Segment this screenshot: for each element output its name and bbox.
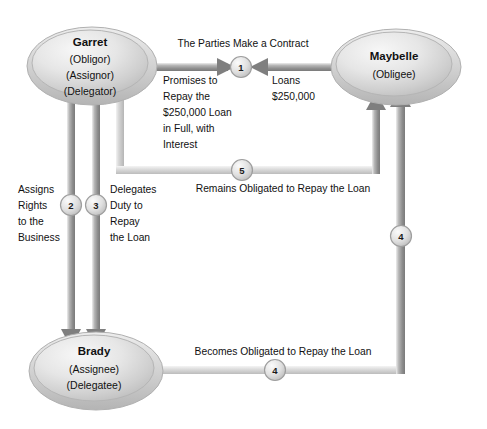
edge-1-maybelle-to-garret bbox=[250, 58, 336, 76]
edge-2-label-line-1: Assigns bbox=[18, 184, 54, 195]
edge-1-garret-to-maybelle bbox=[150, 58, 235, 76]
node-maybelle-name: Maybelle bbox=[370, 50, 419, 62]
marker-4-horizontal-number: 4 bbox=[272, 365, 278, 376]
node-brady-role-1: (Assignee) bbox=[69, 363, 119, 375]
marker-5-number: 5 bbox=[239, 165, 245, 176]
edge-2-label: Assigns Rights to the Business bbox=[18, 184, 60, 243]
edge-1-garret-label: Promises to Repay the $250,000 Loan in F… bbox=[163, 75, 232, 150]
marker-5: 5 bbox=[232, 160, 253, 181]
edge-3-label-line-4: the Loan bbox=[110, 232, 150, 243]
edge-3-delegation bbox=[86, 96, 106, 348]
edge-4-label: Becomes Obligated to Repay the Loan bbox=[195, 346, 372, 357]
edge-5-label: Remains Obligated to Repay the Loan bbox=[196, 183, 371, 194]
node-brady-name: Brady bbox=[78, 345, 111, 357]
edge-3-label: Delegates Duty to Repay the Loan bbox=[110, 184, 156, 243]
marker-3: 3 bbox=[86, 195, 107, 216]
edge-2-label-line-4: Business bbox=[18, 232, 60, 243]
edge-1-maybelle-label-line-2: $250,000 bbox=[272, 91, 315, 102]
edge-3-label-line-3: Repay bbox=[110, 216, 141, 227]
marker-2-number: 2 bbox=[68, 200, 73, 211]
edge-2-label-line-2: Rights bbox=[18, 200, 47, 211]
node-garret-name: Garret bbox=[73, 36, 108, 48]
node-maybelle-role-1: (Obligee) bbox=[372, 68, 415, 80]
node-brady-role-2: (Delegatee) bbox=[67, 379, 122, 391]
edge-1-garret-label-line-1: Promises to bbox=[163, 75, 218, 86]
edge-3-label-line-2: Duty to bbox=[110, 200, 143, 211]
marker-2: 2 bbox=[61, 195, 82, 216]
edge-1-maybelle-label-line-1: Loans bbox=[272, 75, 300, 86]
diagram-canvas: Garret (Obligor) (Assignor) (Delegator) … bbox=[0, 0, 487, 429]
marker-3-number: 3 bbox=[93, 200, 98, 211]
edge-3-label-line-1: Delegates bbox=[110, 184, 156, 195]
edge-1-maybelle-label: Loans $250,000 bbox=[272, 75, 315, 102]
node-maybelle[interactable]: Maybelle (Obligee) bbox=[331, 29, 461, 105]
marker-1-number: 1 bbox=[238, 62, 244, 73]
edge-1-heading: The Parties Make a Contract bbox=[177, 38, 308, 49]
diagram-svg: Garret (Obligor) (Assignor) (Delegator) … bbox=[0, 0, 487, 429]
edge-1-garret-label-line-4: in Full, with bbox=[163, 123, 215, 134]
edge-2-label-line-3: to the bbox=[18, 216, 44, 227]
node-brady[interactable]: Brady (Assignee) (Delegatee) bbox=[29, 332, 163, 410]
node-garret[interactable]: Garret (Obligor) (Assignor) (Delegator) bbox=[27, 27, 157, 105]
marker-4-horizontal: 4 bbox=[265, 360, 286, 381]
edge-5-garret-remains-obligated bbox=[116, 92, 386, 174]
node-garret-role-2: (Assignor) bbox=[66, 69, 114, 81]
node-garret-role-1: (Obligor) bbox=[70, 53, 111, 65]
edge-2-assignment bbox=[61, 96, 81, 348]
node-garret-role-3: (Delegator) bbox=[64, 85, 117, 97]
marker-4-vertical: 4 bbox=[391, 226, 412, 247]
edge-1-garret-label-line-2: Repay the bbox=[163, 91, 210, 102]
edge-1-garret-label-line-5: Interest bbox=[163, 139, 197, 150]
marker-1: 1 bbox=[231, 57, 252, 78]
marker-4-vertical-number: 4 bbox=[398, 231, 404, 242]
edge-1-garret-label-line-3: $250,000 Loan bbox=[163, 107, 232, 118]
